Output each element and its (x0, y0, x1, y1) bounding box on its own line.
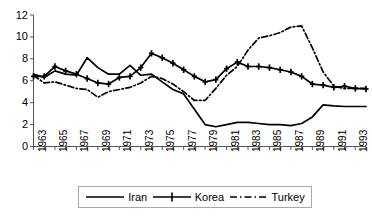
series-marker-korea (203, 79, 208, 85)
series-line-iran (34, 58, 367, 127)
y-tick-label: 2 (8, 119, 28, 130)
x-tick-label: 1963 (38, 130, 48, 152)
x-tick-label: 1973 (145, 130, 155, 152)
series-marker-korea (192, 73, 197, 79)
legend-item-iran[interactable]: Iran (85, 191, 147, 203)
x-tick-label: 1977 (188, 130, 198, 152)
series-marker-korea (278, 67, 283, 73)
x-tick-label: 1989 (316, 130, 326, 152)
x-tick-label: 1979 (209, 130, 219, 152)
x-tick-label: 1967 (80, 130, 90, 152)
series-marker-korea (245, 63, 250, 69)
x-tick-label: 1975 (166, 130, 176, 152)
legend-item-turkey[interactable]: Turkey (229, 191, 305, 203)
series-marker-korea (160, 55, 165, 61)
x-tick-label: 1991 (338, 130, 348, 152)
y-tick-label: 4 (8, 97, 28, 108)
series-marker-korea (85, 75, 90, 81)
series-marker-korea (106, 81, 111, 87)
y-axis-ticks (30, 15, 34, 147)
y-tick-label: 10 (8, 31, 28, 42)
series-marker-korea (181, 67, 186, 73)
legend-swatch-turkey (229, 191, 269, 203)
legend-label-iran: Iran (128, 192, 147, 203)
x-tick-label: 1971 (123, 130, 133, 152)
y-tick-label: 8 (8, 53, 28, 64)
x-tick-label: 1981 (231, 130, 241, 152)
x-tick-label: 1985 (273, 130, 283, 152)
legend-swatch-korea (152, 191, 192, 203)
x-tick-label: 1987 (295, 130, 305, 152)
legend-label-turkey: Turkey (272, 192, 305, 203)
x-tick-label: 1993 (359, 130, 369, 152)
series-line-korea (34, 53, 367, 89)
series-marker-korea (288, 69, 293, 75)
series-marker-korea (170, 60, 175, 66)
series-marker-korea (95, 80, 100, 86)
x-tick-label: 1969 (102, 130, 112, 152)
x-tick-label: 1965 (59, 130, 69, 152)
x-tick-label: 1983 (252, 130, 262, 152)
legend-label-korea: Korea (195, 192, 224, 203)
y-tick-label: 6 (8, 75, 28, 86)
series-marker-korea (256, 63, 261, 69)
series-marker-korea (117, 74, 122, 80)
y-tick-label: 0 (8, 141, 28, 152)
legend-swatch-iran (85, 191, 125, 203)
legend-item-korea[interactable]: Korea (152, 191, 224, 203)
series-marker-korea (267, 64, 272, 70)
line-chart-figure: 024681012 196319651967196919711973197519… (0, 0, 372, 219)
chart-legend: Iran Korea Turkey (78, 186, 312, 208)
data-series-group (31, 26, 369, 127)
series-marker-korea (320, 82, 325, 88)
y-tick-label: 12 (8, 10, 28, 21)
